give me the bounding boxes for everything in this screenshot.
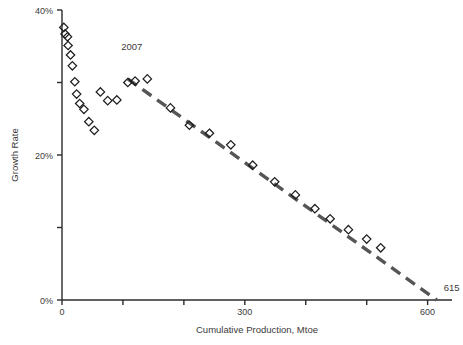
x-tick-label: 0 — [59, 307, 64, 317]
x-tick-label: 600 — [420, 307, 435, 317]
y-tick-label: 20% — [35, 151, 53, 161]
y-tick-label: 0% — [40, 296, 53, 306]
x-intercept-label: 615 — [444, 282, 460, 293]
x-axis-title: Cumulative Production, Mtoe — [196, 324, 318, 335]
peak-year-label: 2007 — [121, 41, 142, 52]
chart-figure: 0%20%40% 0300600 2007 615 Cumulative Pro… — [0, 0, 463, 345]
y-tick-label: 40% — [35, 6, 53, 16]
x-tick-label: 300 — [237, 307, 252, 317]
y-axis-title: Growth Rate — [9, 128, 20, 181]
